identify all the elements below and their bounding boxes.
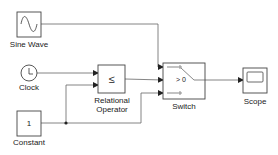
relational-operator-label-line1: Relational bbox=[86, 96, 138, 105]
constant-label: Constant bbox=[9, 138, 49, 147]
scope-block[interactable] bbox=[243, 68, 267, 93]
sine-wave-block[interactable] bbox=[17, 12, 41, 37]
model-canvas bbox=[0, 0, 278, 155]
constant-value: 1 bbox=[17, 119, 41, 128]
switch-label: Switch bbox=[164, 102, 204, 111]
scope-icon bbox=[247, 72, 263, 82]
scope-label: Scope bbox=[235, 97, 275, 106]
clock-label: Clock bbox=[9, 83, 49, 92]
relational-operator-label-line2: Operator bbox=[86, 105, 138, 114]
clock-block[interactable] bbox=[21, 65, 37, 81]
signal-relop-to-switch[interactable] bbox=[125, 79, 163, 80]
branch-junction bbox=[64, 121, 67, 124]
switch-criteria: > 0 bbox=[171, 76, 191, 84]
relational-operator-symbol: ≤ bbox=[98, 73, 125, 85]
sine-wave-label: Sine Wave bbox=[9, 40, 49, 49]
signal-sine-to-switch[interactable] bbox=[41, 24, 163, 67]
